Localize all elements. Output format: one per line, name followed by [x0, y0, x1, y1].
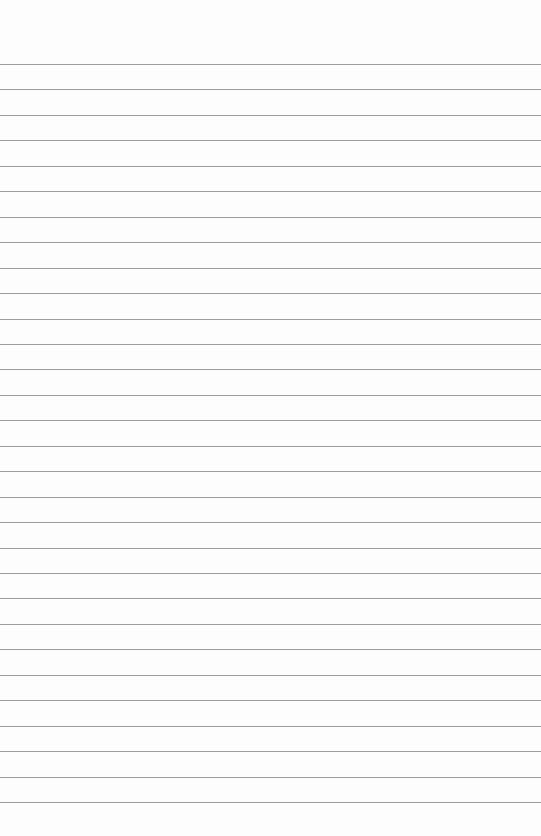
ruled-line: [0, 726, 541, 727]
ruled-line: [0, 166, 541, 167]
ruled-line: [0, 573, 541, 574]
ruled-line: [0, 293, 541, 294]
ruled-line: [0, 446, 541, 447]
ruled-line: [0, 115, 541, 116]
ruled-line: [0, 802, 541, 803]
ruled-line: [0, 217, 541, 218]
ruled-line: [0, 191, 541, 192]
ruled-line: [0, 420, 541, 421]
ruled-line: [0, 242, 541, 243]
ruled-line: [0, 89, 541, 90]
ruled-line: [0, 369, 541, 370]
ruled-line: [0, 140, 541, 141]
lined-paper-sheet: [0, 0, 541, 836]
ruled-line: [0, 675, 541, 676]
ruled-line: [0, 548, 541, 549]
ruled-line: [0, 649, 541, 650]
ruled-line: [0, 64, 541, 65]
ruled-line: [0, 598, 541, 599]
ruled-line: [0, 522, 541, 523]
ruled-line: [0, 344, 541, 345]
ruled-line: [0, 471, 541, 472]
ruled-line: [0, 497, 541, 498]
ruled-line: [0, 624, 541, 625]
ruled-line: [0, 700, 541, 701]
ruled-line: [0, 751, 541, 752]
ruled-line: [0, 777, 541, 778]
ruled-line: [0, 319, 541, 320]
ruled-line: [0, 268, 541, 269]
ruled-line: [0, 395, 541, 396]
